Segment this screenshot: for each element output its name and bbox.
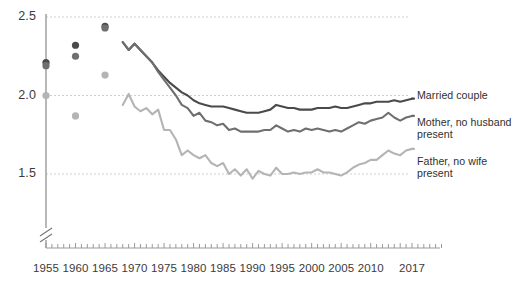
marker-father-no-wife-present-1955 <box>42 92 49 99</box>
series-lines-group <box>123 42 412 179</box>
series-line-father-no-wife-present <box>123 94 412 179</box>
legend-label-line1: Father, no wife <box>417 156 517 168</box>
marker-mother-no-husband-present-1960 <box>72 53 79 60</box>
x-axis-label-1985: 1985 <box>207 262 239 274</box>
legend-label-line2: present <box>417 129 517 141</box>
legend-label-line1: Mother, no husband <box>417 117 517 129</box>
marker-father-no-wife-present-1960 <box>72 112 79 119</box>
x-tick-marks-group <box>46 243 442 248</box>
legend-label-line1: Married couple <box>417 90 517 102</box>
legend-label-line2: present <box>417 168 517 180</box>
x-axis-label-1975: 1975 <box>148 262 180 274</box>
axis-break-icon <box>40 228 52 242</box>
legend-item-father-no-wife: Father, no wife present <box>417 156 517 179</box>
marker-mother-no-husband-present-1965 <box>101 24 108 31</box>
legend-item-married-couple: Married couple <box>417 90 517 102</box>
series-markers-group <box>42 23 108 120</box>
x-axis-label-1990: 1990 <box>237 262 269 274</box>
legend-item-mother-no-husband: Mother, no husband present <box>417 117 517 140</box>
y-axis-label-1.5: 1.5 <box>2 166 36 180</box>
x-axis-label-1995: 1995 <box>266 262 298 274</box>
series-line-married-couple <box>123 42 412 113</box>
chart-container: 2.52.01.5 195519601965197019751980198519… <box>0 0 520 292</box>
x-axis-label-2005: 2005 <box>325 262 357 274</box>
x-axis-label-1980: 1980 <box>178 262 210 274</box>
y-axis-label-2.0: 2.0 <box>2 88 36 102</box>
marker-married-couple-1960 <box>72 42 79 49</box>
x-axis-label-1955: 1955 <box>30 262 62 274</box>
x-axis-label-2017: 2017 <box>396 262 428 274</box>
chart-plot-area <box>0 0 520 292</box>
marker-father-no-wife-present-1965 <box>101 71 108 78</box>
x-axis-label-1970: 1970 <box>119 262 151 274</box>
x-axis-label-1965: 1965 <box>89 262 121 274</box>
x-axis-label-1960: 1960 <box>60 262 92 274</box>
y-axis-label-2.5: 2.5 <box>2 9 36 23</box>
gridlines-group <box>46 17 410 174</box>
marker-mother-no-husband-present-1955 <box>42 62 49 69</box>
x-axis-label-2000: 2000 <box>296 262 328 274</box>
series-line-mother-no-husband-present <box>123 42 412 131</box>
legend-line-stubs-group <box>412 99 414 149</box>
x-axis-label-2010: 2010 <box>355 262 387 274</box>
